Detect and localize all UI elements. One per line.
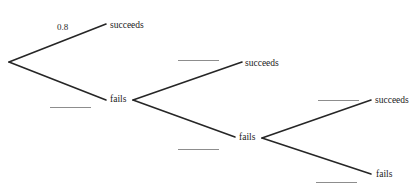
blank-probability-line-stage3-succeeds[interactable]: [318, 100, 359, 101]
branch-line-root-fails: [9, 62, 106, 100]
probability-label-first-success: 0.8: [57, 23, 68, 32]
blank-probability-line-stage3-fails[interactable]: [316, 182, 357, 183]
blank-probability-line-stage1-fails[interactable]: [50, 107, 91, 108]
branch-line-fails1-succeeds: [133, 62, 242, 100]
node-label-fails-2: fails: [239, 133, 255, 143]
branch-line-fails2-succeeds: [262, 100, 371, 138]
node-label-succeeds-1: succeeds: [110, 21, 144, 31]
probability-tree-diagram: 0.8 succeeds fails succeeds fails succee…: [0, 0, 414, 189]
node-label-fails-1: fails: [110, 95, 126, 105]
branch-line-fails2-fails: [262, 138, 371, 174]
node-label-succeeds-3: succeeds: [375, 96, 409, 106]
blank-probability-line-stage2-succeeds[interactable]: [178, 60, 219, 61]
node-label-succeeds-2: succeeds: [245, 59, 279, 69]
branch-line-fails1-fails: [133, 100, 235, 137]
node-label-fails-3: fails: [376, 170, 392, 180]
blank-probability-line-stage2-fails[interactable]: [178, 149, 219, 150]
